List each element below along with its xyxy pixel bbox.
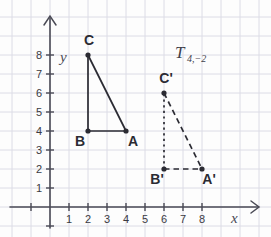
x-tick-label-5: 5 bbox=[142, 213, 148, 225]
x-tick-label-2: 2 bbox=[85, 213, 91, 225]
x-axis-label: x bbox=[230, 210, 238, 226]
y-tick-label-8: 8 bbox=[36, 49, 42, 61]
y-tick-label-3: 3 bbox=[36, 144, 42, 156]
vertex-point-c-prime bbox=[161, 90, 166, 95]
vertex-point-c bbox=[85, 52, 90, 57]
transform-label-main: T bbox=[175, 43, 186, 62]
vertex-label-a: A bbox=[128, 133, 138, 149]
vertex-point-b bbox=[85, 128, 90, 133]
vertex-label-a-prime: A' bbox=[202, 171, 215, 187]
x-tick-label-4: 4 bbox=[123, 213, 129, 225]
x-tick-label-7: 7 bbox=[180, 213, 186, 225]
coordinate-plane-figure: 1 2 3 4 5 6 7 8 1 2 3 4 5 6 7 8 y x T 4,… bbox=[0, 0, 271, 237]
plot-svg: 1 2 3 4 5 6 7 8 1 2 3 4 5 6 7 8 y x T 4,… bbox=[0, 0, 271, 237]
y-tick-label-1: 1 bbox=[36, 182, 42, 194]
transform-label-subscript: 4,−2 bbox=[187, 53, 206, 64]
vertex-label-c-prime: C' bbox=[159, 70, 172, 86]
y-tick-label-4: 4 bbox=[36, 125, 42, 137]
vertex-label-b: B bbox=[75, 133, 85, 149]
x-tick-label-6: 6 bbox=[161, 213, 167, 225]
y-tick-label-7: 7 bbox=[36, 68, 42, 80]
x-tick-label-3: 3 bbox=[104, 213, 110, 225]
y-tick-label-6: 6 bbox=[36, 87, 42, 99]
x-tick-label-8: 8 bbox=[199, 213, 205, 225]
vertex-label-b-prime: B' bbox=[150, 171, 163, 187]
y-tick-label-5: 5 bbox=[36, 106, 42, 118]
y-axis-label: y bbox=[58, 49, 67, 65]
y-tick-label-2: 2 bbox=[36, 163, 42, 175]
vertex-label-c: C bbox=[84, 32, 94, 48]
x-tick-label-1: 1 bbox=[66, 213, 72, 225]
